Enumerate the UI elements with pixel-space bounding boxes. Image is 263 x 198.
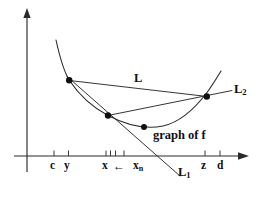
label-graph-of-f: graph of f [153, 129, 206, 142]
L-base: L [134, 71, 142, 85]
point-at-z [204, 93, 210, 99]
diagram-svg [0, 0, 263, 198]
tick-label-z: z [201, 160, 206, 172]
tick-label-d: d [217, 160, 223, 172]
leftwards-arrow-icon: ← [113, 160, 125, 172]
right-arrowhead [238, 152, 249, 159]
axis-ticks [54, 151, 220, 157]
point-at-minimum [141, 124, 147, 130]
up-arrowhead [23, 8, 30, 18]
xn-subscript: n [139, 164, 143, 173]
tick-label-x: x [102, 160, 108, 172]
secant-line-L2 [108, 91, 232, 116]
point-at-y [66, 77, 72, 83]
label-line-L1: L1 [178, 166, 191, 180]
point-at-x [105, 112, 111, 118]
label-line-L2: L2 [234, 83, 247, 97]
tick-label-c: c [50, 160, 55, 172]
tick-label-xn: xn [133, 160, 143, 173]
L2-subscript: 2 [242, 87, 246, 97]
vertical-axis [23, 8, 30, 172]
L1-subscript: 1 [186, 170, 190, 180]
figure-canvas: c y x ← xn z d L L1 L2 graph of f [0, 0, 263, 198]
tick-label-y: y [64, 160, 70, 172]
label-line-L: L [134, 72, 142, 85]
